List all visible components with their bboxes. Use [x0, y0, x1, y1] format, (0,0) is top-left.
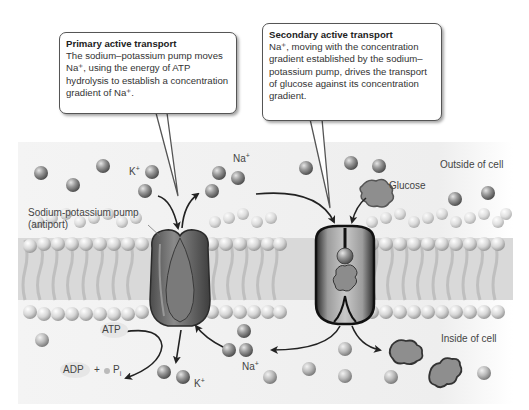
sodium-glucose-symporter — [316, 226, 374, 324]
phosphate-dot — [104, 368, 110, 374]
callout-title: Secondary active transport — [269, 29, 435, 41]
potassium-ion-label-inside: K+ — [194, 377, 205, 389]
primary-transport-callout: Primary active transport The sodium–pota… — [59, 32, 237, 114]
potassium-ion-label-outside: K+ — [129, 165, 140, 177]
pump-label: Sodium-potassium pump — [28, 207, 139, 218]
callout-body: Na⁺, moving with the concentration gradi… — [269, 41, 435, 102]
plus-label: + — [94, 364, 100, 375]
sodium-potassium-pump — [150, 230, 210, 326]
sodium-ion-label-outside: Na+ — [233, 152, 250, 164]
callout-body: The sodium–potassium pump moves Na⁺, usi… — [66, 50, 230, 99]
glucose-label: Glucose — [389, 180, 426, 191]
inside-of-cell-label: Inside of cell — [441, 333, 497, 344]
pump-antiport-label: (antiport) — [28, 219, 68, 230]
secondary-transport-callout: Secondary active transport Na⁺, moving w… — [262, 23, 442, 121]
membrane-transport-diagram: Primary active transport The sodium–pota… — [0, 0, 529, 410]
phosphate-label: Pi — [113, 364, 121, 377]
adp-label: ADP — [63, 364, 84, 375]
outside-of-cell-label: Outside of cell — [440, 159, 503, 170]
atp-label: ATP — [102, 324, 121, 335]
callout-title: Primary active transport — [66, 38, 230, 50]
sodium-ion-label-inside: Na+ — [242, 360, 259, 372]
